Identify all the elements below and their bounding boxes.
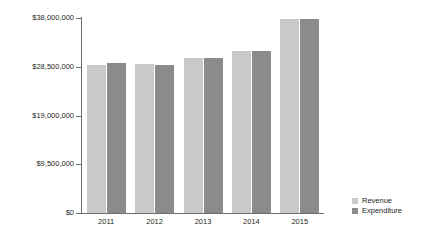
bar-expenditure-2015 (300, 19, 319, 213)
y-axis-tick-label: $38,000,000 (0, 14, 74, 22)
x-axis-tick-label: 2012 (130, 217, 180, 226)
legend-swatch-revenue-icon (352, 198, 358, 204)
bar-expenditure-2012 (155, 65, 174, 213)
y-axis-tick (76, 164, 81, 165)
bar-expenditure-2011 (107, 63, 126, 213)
legend: Revenue Expenditure (352, 196, 402, 216)
bar-revenue-2015 (280, 19, 299, 213)
y-axis-tick (76, 67, 81, 68)
x-axis-tick-label: 2015 (275, 217, 325, 226)
y-axis-tick (76, 18, 81, 19)
bar-expenditure-2014 (252, 51, 271, 213)
legend-item-expenditure: Expenditure (352, 206, 402, 216)
x-axis-tick-label: 2014 (226, 217, 276, 226)
y-axis-tick-label: $28,500,000 (0, 63, 74, 71)
legend-item-revenue: Revenue (352, 196, 402, 206)
x-axis-tick-label: 2011 (81, 217, 131, 226)
bar-revenue-2011 (87, 65, 106, 213)
bar-expenditure-2013 (204, 58, 223, 213)
legend-label-revenue: Revenue (362, 196, 392, 206)
y-axis-tick-label: $19,000,000 (0, 112, 74, 120)
x-axis-line (81, 213, 324, 214)
plot-area (82, 18, 324, 213)
bar-chart: $38,000,000$28,500,000$19,000,000$9,500,… (0, 0, 424, 236)
legend-label-expenditure: Expenditure (362, 206, 402, 216)
legend-swatch-expenditure-icon (352, 208, 358, 214)
bar-revenue-2013 (184, 58, 203, 213)
bar-revenue-2014 (232, 51, 251, 213)
y-axis-tick (76, 116, 81, 117)
bar-revenue-2012 (135, 64, 154, 213)
y-axis-tick-label: $9,500,000 (0, 160, 74, 168)
y-axis-tick-label: $0 (0, 209, 74, 217)
x-axis-tick-label: 2013 (178, 217, 228, 226)
